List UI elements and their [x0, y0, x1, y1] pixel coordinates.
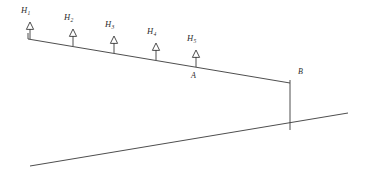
load-label-subscript: 2: [70, 17, 73, 23]
load-label-h3: H3: [105, 20, 114, 29]
load-arrow-head-h3: [110, 36, 117, 43]
load-label-subscript: 5: [193, 38, 196, 44]
geometry-group: [28, 33, 348, 166]
load-arrow-head-h4: [152, 43, 159, 50]
load-arrow-head-h5: [192, 50, 199, 57]
load-arrow-head-h2: [69, 29, 76, 36]
load-label-subscript: 1: [27, 10, 30, 16]
load-label-h1: H1: [21, 6, 30, 15]
diagram-canvas: [0, 0, 366, 180]
load-label-subscript: 3: [111, 24, 114, 30]
load-label-h4: H4: [147, 27, 156, 36]
sloped-beam-line: [28, 39, 290, 83]
load-label-h2: H2: [64, 13, 73, 22]
point-label-a: A: [191, 72, 196, 80]
structural-diagram: H1H2H3H4H5AB: [0, 0, 366, 180]
point-label-b: B: [298, 68, 303, 76]
load-label-h5: H5: [187, 34, 196, 43]
load-label-subscript: 4: [153, 31, 156, 37]
load-arrow-head-h1: [26, 22, 33, 29]
ground-surface-line: [30, 113, 348, 166]
